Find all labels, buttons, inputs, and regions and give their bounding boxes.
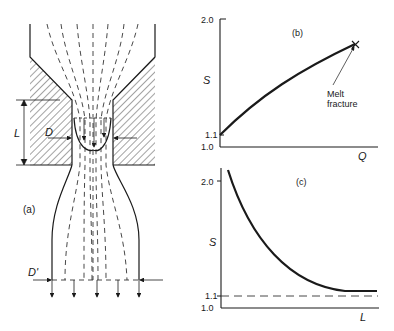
dimension-L-label: L — [14, 127, 20, 139]
panel-b-label: (b) — [292, 28, 303, 38]
panel-c-x-label: L — [360, 311, 366, 323]
panel-b-y-label: S — [203, 74, 211, 86]
panel-c-label: (c) — [296, 177, 307, 187]
panel-a-label: (a) — [23, 204, 35, 215]
panel-c-tick-1-1: 1.1 — [205, 291, 218, 301]
panel-c-tick-1-0: 1.0 — [201, 303, 214, 313]
dimension-D-label: D — [45, 126, 53, 138]
panel-c-y-label: S — [209, 236, 217, 248]
panel-b-chart: 2.0 1.1 1.0 S Q (b) Melt fracture — [201, 15, 378, 162]
panel-c-chart: 2.0 1.1 1.0 S L (c) — [201, 168, 379, 323]
figure-canvas: L D (a) D' 2.0 1.1 1.0 S Q (b) — [0, 0, 394, 331]
panel-b-tick-2-0: 2.0 — [201, 15, 214, 25]
panel-b-x-label: Q — [358, 150, 367, 162]
extrudate-outline-left — [52, 165, 72, 280]
die-wall-right — [113, 57, 155, 165]
panel-b-tick-1-1: 1.1 — [205, 130, 218, 140]
exit-flow-arrows — [52, 280, 139, 297]
panel-b-tick-1-0: 1.0 — [201, 142, 214, 152]
panel-c-curve — [228, 170, 377, 291]
melt-fracture-label-line2: fracture — [327, 99, 358, 109]
panel-a-die-diagram: L D (a) D' — [14, 24, 163, 297]
die-wall-left — [30, 57, 72, 165]
panel-c-tick-2-0: 2.0 — [201, 177, 214, 187]
melt-fracture-label-line1: Melt — [327, 89, 345, 99]
dimension-D-prime-label: D' — [28, 266, 39, 278]
